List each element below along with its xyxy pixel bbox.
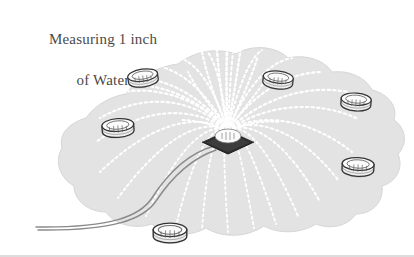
catch-can-bottom [153, 223, 187, 244]
figure-title-line-1: Measuring 1 inch [8, 29, 198, 50]
illustration-figure: Measuring 1 inch of Water [0, 0, 414, 257]
figure-title-line-2: of Water [8, 70, 198, 91]
figure-title: Measuring 1 inch of Water [8, 8, 198, 111]
catch-can-right-lower [342, 157, 375, 178]
